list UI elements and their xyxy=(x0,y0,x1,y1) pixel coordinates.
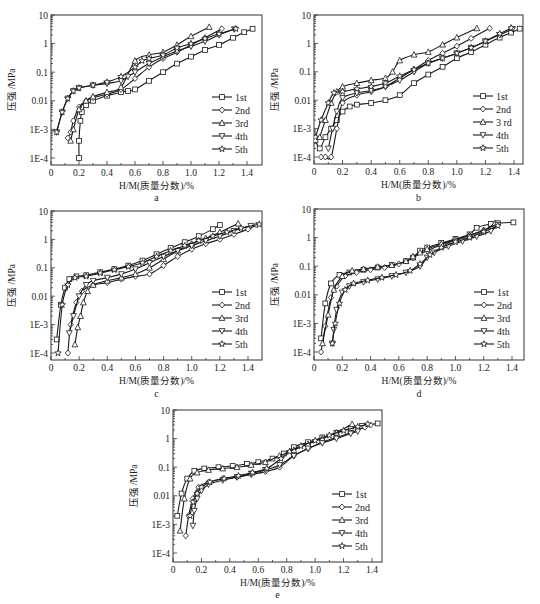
square-marker-icon xyxy=(375,421,380,426)
diamond-marker-icon xyxy=(183,533,188,539)
chart-panel-a: 00.20.40.60.81.01.21.41E-41E-30.010.1110… xyxy=(7,11,262,204)
legend-item: 3rd xyxy=(474,313,510,324)
x-tick-label: 1.0 xyxy=(309,565,321,575)
triangle-up-marker-icon xyxy=(72,341,78,347)
y-tick-label: 10 xyxy=(161,406,171,416)
y-axis-title: 压强 /MPa xyxy=(7,68,17,112)
square-marker-icon xyxy=(317,146,322,151)
triangle-down-marker-icon xyxy=(325,146,331,152)
star-marker-icon xyxy=(219,341,225,347)
legend: 1st2nd3rd4th5th xyxy=(212,92,250,155)
legend-label: 3rd xyxy=(235,313,248,324)
square-marker-icon xyxy=(426,72,431,77)
y-tick-label: 1 xyxy=(165,434,170,444)
legend-item: 5th xyxy=(474,339,510,350)
square-marker-icon xyxy=(250,26,255,31)
square-marker-icon xyxy=(323,301,328,306)
triangle-down-marker-icon xyxy=(76,294,82,300)
square-marker-icon xyxy=(347,104,352,109)
star-marker-icon xyxy=(219,146,225,152)
diamond-marker-icon xyxy=(454,43,459,49)
diamond-marker-icon xyxy=(469,35,474,41)
x-tick-label: 0.4 xyxy=(224,565,236,575)
y-tick-label: 1E-4 xyxy=(152,549,171,559)
y-axis-title: 压强 /MPa xyxy=(129,464,139,508)
legend-label: 1st xyxy=(235,287,247,298)
x-tick-label: 0.6 xyxy=(129,168,141,178)
legend-label: 1st xyxy=(235,92,247,103)
legend-item: 4th xyxy=(332,528,368,539)
x-tick-label: 0.8 xyxy=(158,363,170,373)
x-tick-label: 0.8 xyxy=(421,363,433,373)
x-tick-label: 0.2 xyxy=(73,168,85,178)
chart-panel-d: 00.20.40.60.81.01.21.41E-41E-30.010.1110… xyxy=(270,205,524,400)
x-tick-label: 1.0 xyxy=(185,168,197,178)
triangle-up-marker-icon xyxy=(177,528,183,534)
series-line-1st xyxy=(321,222,513,338)
legend-item: 4th xyxy=(212,131,248,142)
figure: 00.20.40.60.81.01.21.41E-41E-30.010.1110… xyxy=(0,0,540,604)
plot-area-frame xyxy=(51,211,262,360)
legend-label: 2nd xyxy=(235,300,250,311)
square-marker-icon xyxy=(217,223,222,228)
x-tick-label: 0 xyxy=(49,168,54,178)
star-marker-icon xyxy=(393,271,399,277)
legend-label: 4th xyxy=(496,130,509,141)
legend-item: 2nd xyxy=(473,104,511,115)
x-tick-label: 1.2 xyxy=(479,167,491,177)
y-axis-title: 压强 /MPa xyxy=(270,67,280,111)
x-tick-label: 1.2 xyxy=(213,168,225,178)
y-tick-label: 1E-3 xyxy=(30,125,49,135)
legend-label: 2nd xyxy=(497,300,512,311)
legend-item: 3rd xyxy=(212,313,248,324)
series-line-2nd xyxy=(321,28,490,159)
legend-item: 1st xyxy=(212,92,247,103)
legend-label: 4th xyxy=(497,326,510,337)
x-tick-label: 1.0 xyxy=(186,363,198,373)
legend-item: 1st xyxy=(474,287,509,298)
x-tick-label: 0 xyxy=(312,167,317,177)
x-tick-label: 0 xyxy=(171,565,176,575)
series-group xyxy=(318,220,515,355)
y-tick-label: 10 xyxy=(302,205,312,215)
star-marker-icon xyxy=(379,274,385,280)
legend-item: 5th xyxy=(473,143,509,154)
legend-label: 2nd xyxy=(235,105,250,116)
square-marker-icon xyxy=(340,492,345,497)
series-line-1st xyxy=(315,29,519,149)
chart-panel-b: 00.20.40.60.81.01.21.41E-41E-30.010.1110… xyxy=(270,11,523,204)
y-tick-label: 10 xyxy=(302,11,312,21)
legend-label: 5th xyxy=(496,143,509,154)
x-tick-label: 0.4 xyxy=(365,363,377,373)
y-tick-label: 0.1 xyxy=(36,263,48,273)
diamond-marker-icon xyxy=(147,271,152,277)
series-line-4th xyxy=(57,29,235,132)
series-line-4th xyxy=(332,225,497,344)
legend-item: 2nd xyxy=(212,105,250,116)
y-tick-label: 1E-3 xyxy=(152,520,171,530)
square-marker-icon xyxy=(217,43,222,48)
series-group xyxy=(53,24,255,161)
x-tick-label: 1.4 xyxy=(508,167,520,177)
legend: 1st2nd3rd4th5th xyxy=(212,287,250,350)
x-tick-label: 1.4 xyxy=(242,363,254,373)
y-tick-label: 1E-4 xyxy=(293,153,312,163)
square-marker-icon xyxy=(323,135,328,140)
triangle-down-marker-icon xyxy=(190,523,196,529)
diamond-marker-icon xyxy=(339,504,344,510)
square-marker-icon xyxy=(77,156,82,161)
triangle-up-marker-icon xyxy=(474,25,480,31)
square-marker-icon xyxy=(78,118,83,123)
y-tick-label: 1 xyxy=(43,235,48,245)
y-tick-label: 0.1 xyxy=(36,68,48,78)
square-marker-icon xyxy=(517,26,522,31)
triangle-down-marker-icon xyxy=(66,331,72,337)
y-axis-title: 压强 /MPa xyxy=(270,262,280,306)
star-marker-icon xyxy=(365,277,371,283)
x-tick-label: 1.4 xyxy=(506,363,518,373)
square-marker-icon xyxy=(397,93,402,98)
legend-label: 5th xyxy=(355,541,368,552)
legend-label: 3rd xyxy=(235,118,248,129)
star-marker-icon xyxy=(480,145,486,151)
star-marker-icon xyxy=(194,490,200,496)
